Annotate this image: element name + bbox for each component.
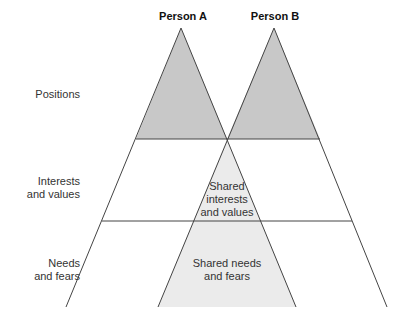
level-positions-label: Positions xyxy=(0,88,80,101)
level-interests-line2: and values xyxy=(0,188,80,201)
level-needs-label: Needs and fears xyxy=(0,257,80,283)
person-b-header: Person B xyxy=(250,10,300,23)
shared-interests-line1: Shared xyxy=(187,180,267,193)
person-a-left-edge xyxy=(66,28,181,307)
level-positions-text: Positions xyxy=(0,88,80,101)
person-b-positions-tip xyxy=(227,28,320,139)
shared-needs-line2: and fears xyxy=(182,270,272,283)
shared-interests-line3: and values xyxy=(187,206,267,219)
shared-needs-line1: Shared needs xyxy=(182,257,272,270)
person-a-positions-tip xyxy=(136,28,227,139)
shared-interests-line2: interests xyxy=(187,193,267,206)
shared-interests-label: Shared interests and values xyxy=(187,180,267,219)
level-needs-line1: Needs xyxy=(0,257,80,270)
level-interests-line1: Interests xyxy=(0,175,80,188)
level-needs-line2: and fears xyxy=(0,270,80,283)
shared-needs-label: Shared needs and fears xyxy=(182,257,272,283)
person-b-right-edge xyxy=(274,28,387,307)
person-a-header: Person A xyxy=(158,10,208,23)
level-interests-label: Interests and values xyxy=(0,175,80,201)
